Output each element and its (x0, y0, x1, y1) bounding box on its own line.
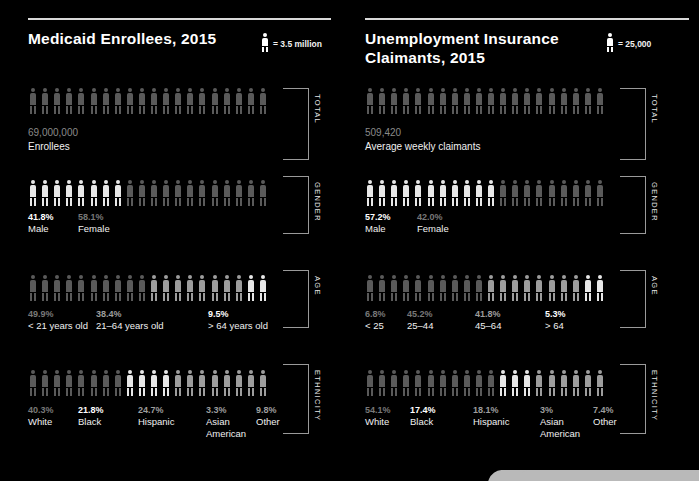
group-label-ethnicity-1: 21.8%Black (78, 404, 104, 428)
group-name: < 21 years old (28, 320, 88, 332)
bracket-gender (283, 176, 309, 234)
person-icon (185, 180, 195, 205)
person-icon (583, 275, 593, 300)
group-label-gender-0: 57.2%Male (365, 211, 391, 235)
person-icon (76, 88, 86, 113)
group-percent: 9.5% (208, 308, 268, 320)
person-icon (438, 370, 448, 395)
person-icon (246, 370, 256, 395)
person-icon (149, 370, 159, 395)
group-percent: 24.7% (138, 404, 174, 416)
person-icon (161, 370, 171, 395)
bracket-gender (620, 176, 646, 234)
person-icon (389, 88, 399, 113)
person-icon (389, 275, 399, 300)
group-percent: 9.8% (256, 404, 280, 416)
group-percent: 3% (540, 404, 580, 416)
person-icon (210, 370, 220, 395)
person-icon (76, 370, 86, 395)
person-icon (377, 180, 387, 205)
header-rule (365, 18, 689, 20)
person-icon (197, 275, 207, 300)
group-percent: 58.1% (78, 211, 110, 223)
person-icon (137, 275, 147, 300)
person-icon (365, 88, 375, 113)
person-icon (149, 88, 159, 113)
pictogram-row-gender (28, 180, 268, 205)
person-icon (76, 180, 86, 205)
person-icon (413, 88, 423, 113)
person-icon (595, 370, 605, 395)
group-percent: 3.3% (206, 404, 246, 416)
person-icon (486, 275, 496, 300)
bracket-label-total: TOTAL (313, 94, 322, 154)
bracket-total (620, 88, 646, 160)
pictogram-row-total (28, 88, 268, 113)
person-icon (583, 180, 593, 205)
bracket-label-ethnicity: ETHNICITY (650, 370, 659, 428)
person-icon (389, 180, 399, 205)
group-name: > 64 years old (208, 320, 268, 332)
person-icon (222, 275, 232, 300)
person-icon (510, 88, 520, 113)
person-icon (40, 88, 50, 113)
pictogram-row-gender (365, 180, 605, 205)
person-icon (522, 370, 532, 395)
group-name: 25–44 (407, 320, 433, 332)
person-icon (522, 88, 532, 113)
person-icon (28, 275, 38, 300)
group-name: > 64 (545, 320, 566, 332)
person-icon (486, 88, 496, 113)
person-icon (113, 370, 123, 395)
person-icon (173, 275, 183, 300)
panel-unemployment: Unemployment Insurance Claimants, 2015 =… (350, 0, 699, 481)
person-icon (510, 275, 520, 300)
person-icon (474, 180, 484, 205)
group-name: Female (78, 223, 110, 235)
person-icon (595, 88, 605, 113)
person-icon (401, 370, 411, 395)
group-name: Hispanic (473, 416, 509, 428)
person-icon (222, 88, 232, 113)
header-rule (28, 18, 331, 20)
person-icon (595, 180, 605, 205)
group-label-ethnicity-2: 18.1%Hispanic (473, 404, 509, 428)
group-label-age-2: 9.5%> 64 years old (208, 308, 268, 332)
group-label-gender-0: 41.8%Male (28, 211, 54, 235)
person-icon (173, 370, 183, 395)
person-icon (161, 180, 171, 205)
pictogram-row-ethnicity (365, 370, 605, 395)
person-icon (498, 275, 508, 300)
person-icon (413, 370, 423, 395)
pictogram-row-age (365, 275, 605, 300)
person-icon (547, 180, 557, 205)
person-icon (64, 370, 74, 395)
person-icon (426, 180, 436, 205)
person-icon (559, 180, 569, 205)
group-percent: 42.0% (417, 211, 449, 223)
group-name: Male (28, 223, 54, 235)
person-icon (450, 370, 460, 395)
person-icon (185, 275, 195, 300)
group-label-gender-1: 58.1%Female (78, 211, 110, 235)
bracket-ethnicity (283, 364, 309, 434)
person-icon (89, 370, 99, 395)
person-icon (365, 370, 375, 395)
group-label-age-2: 41.8%45–64 (475, 308, 501, 332)
legend-unemployment: = 25,000 (605, 33, 651, 54)
pictogram-row-ethnicity (28, 370, 268, 395)
person-icon (173, 88, 183, 113)
person-icon (365, 180, 375, 205)
person-icon (101, 88, 111, 113)
legend-label: = 3.5 million (273, 39, 322, 49)
person-icon (125, 275, 135, 300)
person-icon (28, 370, 38, 395)
group-percent: 54.1% (365, 404, 391, 416)
person-icon (258, 88, 268, 113)
group-name: Black (78, 416, 104, 428)
group-percent: 41.8% (28, 211, 54, 223)
group-percent: 18.1% (473, 404, 509, 416)
person-icon (28, 88, 38, 113)
person-icon (149, 275, 159, 300)
group-label-age-1: 45.2%25–44 (407, 308, 433, 332)
